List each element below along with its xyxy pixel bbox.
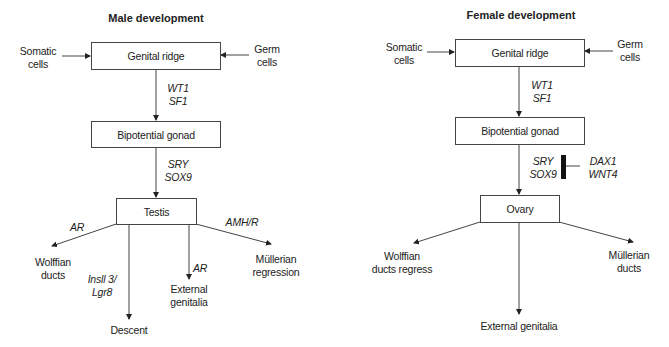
male-descent-factor: Insll 3/Lgr8 <box>88 273 117 299</box>
male-wolffian-factor: AR <box>70 221 84 234</box>
testis-box: Testis <box>116 198 197 225</box>
male-descent-label: Descent <box>110 324 147 337</box>
male-bipotential-gonad-box: Bipotential gonad <box>91 121 221 148</box>
female-sry-sox9-label: SRYSOX9 <box>529 155 556 181</box>
male-external-factor: AR <box>193 262 207 275</box>
male-mullerian-factor: AMH/R <box>226 216 259 229</box>
female-wt1-sf1-label: WT1SF1 <box>531 79 553 105</box>
female-wolffian-ducts-regress-label: Wolffianducts regress <box>372 250 432 276</box>
female-external-genitalia-label: External genitalia <box>481 320 558 333</box>
male-mullerian-regression-label: Müllerianregression <box>252 253 299 279</box>
ovary-box: Ovary <box>480 195 560 223</box>
female-mullerian-ducts-label: Müllerianducts <box>609 249 650 275</box>
female-dax1-wnt4-label: DAX1WNT4 <box>589 155 618 181</box>
female-bipotential-gonad-box: Bipotential gonad <box>455 117 585 145</box>
inhibition-bar <box>561 155 566 179</box>
male-sry-sox9-label: SRYSOX9 <box>164 158 191 184</box>
male-somatic-cells-label: Somaticcells <box>20 45 57 71</box>
female-genital-ridge-box: Genital ridge <box>455 39 585 67</box>
male-title: Male development <box>108 12 203 24</box>
male-germ-cells-label: Germcells <box>254 43 279 69</box>
male-external-genitalia-label: Externalgenitalia <box>170 283 207 309</box>
male-wt1-sf1-label: WT1SF1 <box>167 82 189 108</box>
male-wolffian-ducts-label: Wolffianducts <box>35 256 71 282</box>
female-title: Female development <box>467 9 576 21</box>
female-somatic-cells-label: Somaticcells <box>386 41 423 67</box>
female-germ-cells-label: Germcells <box>617 38 642 64</box>
male-genital-ridge-box: Genital ridge <box>91 42 221 70</box>
